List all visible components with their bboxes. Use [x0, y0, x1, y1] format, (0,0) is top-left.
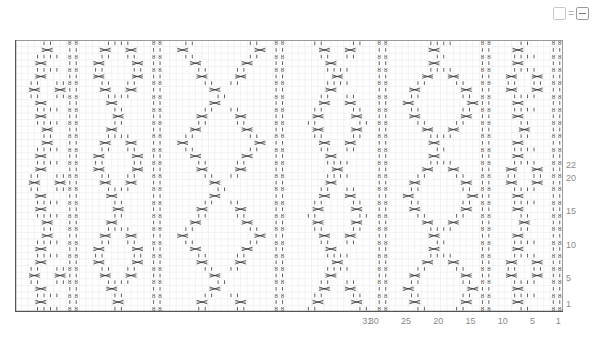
svg-text:ȣ: ȣ: [378, 40, 382, 46]
svg-text:ȣ: ȣ: [158, 186, 162, 192]
view-toolbar: =: [553, 7, 589, 20]
svg-text:ȣ: ȣ: [158, 160, 162, 166]
svg-text:ȣ: ȣ: [68, 266, 72, 272]
svg-text:ȣ: ȣ: [558, 147, 562, 153]
svg-text:ȣ: ȣ: [558, 54, 562, 60]
svg-text:ȣ: ȣ: [384, 173, 388, 179]
svg-text:ȣ: ȣ: [481, 279, 485, 285]
svg-text:ȣ: ȣ: [68, 147, 72, 153]
svg-text:ȣ: ȣ: [384, 200, 388, 206]
svg-text:ȣ: ȣ: [487, 213, 491, 219]
svg-text:ȣ: ȣ: [274, 200, 278, 206]
svg-text:ȣ: ȣ: [558, 80, 562, 86]
svg-text:ȣ: ȣ: [75, 107, 79, 113]
svg-text:ȣ: ȣ: [152, 160, 156, 166]
svg-text:ȣ: ȣ: [481, 147, 485, 153]
svg-text:ȣ: ȣ: [558, 186, 562, 192]
svg-text:ȣ: ȣ: [68, 67, 72, 73]
view-toggle-right-button[interactable]: [576, 7, 589, 20]
svg-text:ȣ: ȣ: [75, 120, 79, 126]
svg-text:ȣ: ȣ: [158, 107, 162, 113]
svg-text:ȣ: ȣ: [158, 54, 162, 60]
svg-text:ȣ: ȣ: [384, 186, 388, 192]
svg-text:ȣ: ȣ: [75, 226, 79, 232]
svg-text:ȣ: ȣ: [68, 240, 72, 246]
svg-text:ȣ: ȣ: [552, 279, 556, 285]
column-label: 20: [433, 316, 443, 326]
svg-text:ȣ: ȣ: [378, 240, 382, 246]
svg-text:ȣ: ȣ: [558, 133, 562, 139]
view-toggle-left-button[interactable]: [553, 7, 566, 20]
svg-text:ȣ: ȣ: [274, 120, 278, 126]
svg-text:ȣ: ȣ: [552, 213, 556, 219]
svg-text:ȣ: ȣ: [68, 94, 72, 100]
svg-text:ȣ: ȣ: [158, 40, 162, 46]
equals-label: =: [568, 8, 574, 19]
svg-text:ȣ: ȣ: [281, 266, 285, 272]
svg-text:ȣ: ȣ: [152, 279, 156, 285]
svg-text:ȣ: ȣ: [558, 160, 562, 166]
svg-text:ȣ: ȣ: [152, 293, 156, 299]
svg-text:ȣ: ȣ: [281, 40, 285, 46]
row-label: 1: [566, 299, 571, 309]
svg-text:ȣ: ȣ: [378, 279, 382, 285]
svg-text:ȣ: ȣ: [378, 160, 382, 166]
svg-text:ȣ: ȣ: [152, 173, 156, 179]
svg-text:ȣ: ȣ: [152, 120, 156, 126]
svg-text:ȣ: ȣ: [552, 94, 556, 100]
svg-text:ȣ: ȣ: [158, 200, 162, 206]
svg-text:ȣ: ȣ: [281, 67, 285, 73]
svg-text:ȣ: ȣ: [68, 40, 72, 46]
svg-text:ȣ: ȣ: [274, 173, 278, 179]
svg-text:ȣ: ȣ: [552, 120, 556, 126]
svg-text:ȣ: ȣ: [152, 253, 156, 259]
svg-text:ȣ: ȣ: [481, 200, 485, 206]
svg-text:ȣ: ȣ: [158, 293, 162, 299]
svg-text:ȣ: ȣ: [487, 94, 491, 100]
svg-text:ȣ: ȣ: [274, 67, 278, 73]
svg-text:ȣ: ȣ: [281, 293, 285, 299]
svg-text:ȣ: ȣ: [152, 240, 156, 246]
svg-text:ȣ: ȣ: [68, 200, 72, 206]
svg-text:ȣ: ȣ: [558, 266, 562, 272]
svg-text:ȣ: ȣ: [481, 160, 485, 166]
svg-text:ȣ: ȣ: [558, 279, 562, 285]
svg-text:ȣ: ȣ: [378, 173, 382, 179]
svg-text:ȣ: ȣ: [378, 200, 382, 206]
svg-text:ȣ: ȣ: [558, 40, 562, 46]
svg-text:ȣ: ȣ: [552, 226, 556, 232]
column-label: 1: [556, 316, 561, 326]
svg-text:ȣ: ȣ: [384, 120, 388, 126]
svg-text:ȣ: ȣ: [152, 107, 156, 113]
svg-text:ȣ: ȣ: [384, 107, 388, 113]
svg-text:ȣ: ȣ: [481, 107, 485, 113]
svg-text:ȣ: ȣ: [378, 107, 382, 113]
row-label: 22: [566, 160, 576, 170]
svg-text:ȣ: ȣ: [378, 226, 382, 232]
svg-text:ȣ: ȣ: [487, 147, 491, 153]
svg-text:ȣ: ȣ: [558, 253, 562, 259]
column-label: 5: [530, 316, 535, 326]
svg-text:ȣ: ȣ: [274, 253, 278, 259]
svg-text:ȣ: ȣ: [274, 94, 278, 100]
svg-text:ȣ: ȣ: [384, 133, 388, 139]
svg-text:ȣ: ȣ: [487, 279, 491, 285]
svg-text:ȣ: ȣ: [274, 213, 278, 219]
svg-text:ȣ: ȣ: [558, 120, 562, 126]
svg-text:ȣ: ȣ: [487, 67, 491, 73]
svg-text:ȣ: ȣ: [274, 147, 278, 153]
svg-text:ȣ: ȣ: [487, 266, 491, 272]
svg-text:ȣ: ȣ: [384, 160, 388, 166]
svg-text:ȣ: ȣ: [281, 80, 285, 86]
svg-text:ȣ: ȣ: [558, 107, 562, 113]
svg-text:ȣ: ȣ: [558, 306, 562, 312]
svg-text:ȣ: ȣ: [552, 266, 556, 272]
svg-text:ȣ: ȣ: [274, 160, 278, 166]
svg-text:ȣ: ȣ: [378, 266, 382, 272]
svg-text:ȣ: ȣ: [552, 306, 556, 312]
svg-text:ȣ: ȣ: [384, 94, 388, 100]
svg-text:ȣ: ȣ: [274, 226, 278, 232]
svg-text:ȣ: ȣ: [481, 94, 485, 100]
svg-text:ȣ: ȣ: [552, 253, 556, 259]
svg-text:ȣ: ȣ: [481, 80, 485, 86]
